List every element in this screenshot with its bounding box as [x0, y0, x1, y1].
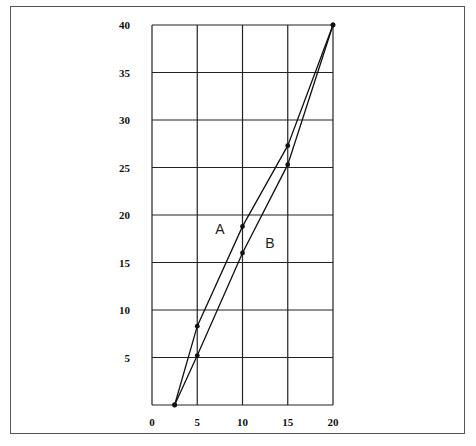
data-point — [195, 353, 200, 358]
y-tick-label: 15 — [119, 257, 131, 269]
series-label-a: A — [215, 221, 225, 237]
x-tick-label: 0 — [149, 416, 155, 428]
data-point — [240, 224, 245, 229]
y-tick-label: 10 — [119, 304, 131, 316]
series-label-b: B — [265, 235, 274, 251]
y-tick-label: 5 — [125, 352, 131, 364]
x-tick-label: 5 — [195, 416, 201, 428]
x-tick-label: 15 — [282, 416, 294, 428]
line-chart: 05101520510152025303540AB — [0, 0, 476, 446]
y-tick-label: 40 — [119, 19, 131, 31]
data-point — [331, 23, 336, 28]
x-tick-label: 10 — [237, 416, 249, 428]
x-tick-label: 20 — [328, 416, 340, 428]
data-point — [195, 324, 200, 329]
data-point — [240, 251, 245, 256]
y-tick-label: 25 — [119, 162, 131, 174]
data-point — [172, 403, 177, 408]
data-point — [285, 143, 290, 148]
data-point — [285, 162, 290, 167]
y-tick-label: 35 — [119, 67, 131, 79]
y-tick-label: 30 — [119, 114, 131, 126]
y-tick-label: 20 — [119, 209, 131, 221]
